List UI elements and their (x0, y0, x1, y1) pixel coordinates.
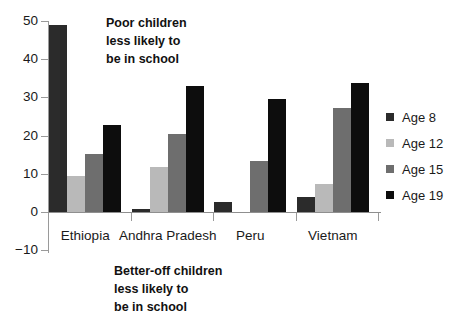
legend-swatch-icon (386, 139, 394, 147)
legend-swatch-icon (386, 191, 394, 199)
annotation-better-off-children: Better-off childrenless likely tobe in s… (114, 262, 222, 315)
bar (132, 209, 150, 212)
annotation-line: less likely to (106, 32, 187, 50)
bar (351, 83, 369, 212)
y-tick-mark (41, 250, 48, 251)
legend-item[interactable]: Age 15 (386, 156, 443, 182)
group-separator-tick (378, 213, 379, 221)
y-axis-label: 0 (4, 205, 38, 219)
y-axis-label: 30 (4, 91, 38, 105)
bar (268, 99, 286, 212)
legend-label: Age 8 (402, 110, 436, 125)
annotation-line: less likely to (114, 280, 222, 298)
annotation-line: Better-off children (114, 262, 222, 280)
annotation-line: be in school (114, 298, 222, 315)
y-axis-label: 50 (4, 14, 38, 28)
y-tick-mark (41, 21, 48, 22)
y-tick-mark (41, 97, 48, 98)
annotation-poor-children: Poor childrenless likely tobe in school (106, 14, 187, 68)
y-tick-mark (41, 59, 48, 60)
category-label: Vietnam (308, 228, 357, 243)
y-axis-label: 20 (4, 129, 38, 143)
bar (150, 167, 168, 212)
legend-label: Age 12 (402, 136, 443, 151)
y-tick-mark (41, 174, 48, 175)
category-label: Ethiopia (61, 228, 110, 243)
annotation-line: be in school (106, 50, 187, 68)
bar (186, 86, 204, 212)
bar (214, 202, 232, 212)
legend-item[interactable]: Age 8 (386, 104, 443, 130)
legend-item[interactable]: Age 12 (386, 130, 443, 156)
bar (297, 197, 315, 212)
bar (315, 184, 333, 212)
bar (250, 161, 268, 212)
bar (168, 134, 186, 212)
legend-label: Age 19 (402, 188, 443, 203)
annotation-line: Poor children (106, 14, 187, 32)
legend-swatch-icon (386, 113, 394, 121)
y-tick-mark (41, 136, 48, 137)
y-axis-label: −10 (4, 243, 38, 257)
bar-chart: 50403020100−10 EthiopiaAndhra PradeshPer… (0, 0, 455, 315)
y-axis-label: 40 (4, 52, 38, 66)
plot-area (48, 18, 378, 254)
category-label: Andhra Pradesh (119, 228, 217, 243)
bar (333, 108, 351, 212)
bar (67, 176, 85, 212)
category-label: Peru (236, 228, 265, 243)
bar (49, 25, 67, 212)
y-tick-mark (41, 212, 48, 213)
y-axis-label: 10 (4, 167, 38, 181)
legend-label: Age 15 (402, 162, 443, 177)
bar (103, 125, 121, 212)
legend: Age 8Age 12Age 15Age 19 (386, 104, 443, 208)
legend-item[interactable]: Age 19 (386, 182, 443, 208)
legend-swatch-icon (386, 165, 394, 173)
bar (85, 154, 103, 212)
